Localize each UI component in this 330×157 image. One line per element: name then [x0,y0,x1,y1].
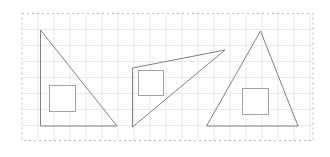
right-inner-square [243,89,269,115]
worksheet-figure [0,0,330,157]
left-inner-square [50,86,76,112]
geometry-figure [0,0,330,157]
middle-inner-square [139,71,164,96]
figure-background [0,0,330,157]
